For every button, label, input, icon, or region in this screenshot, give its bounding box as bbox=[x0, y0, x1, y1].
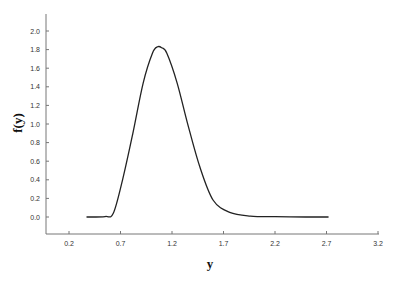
x-tick-label: 1.2 bbox=[167, 240, 177, 247]
x-tick-label: 2.2 bbox=[270, 240, 280, 247]
y-tick-label: 0.4 bbox=[30, 176, 40, 183]
density-curve bbox=[87, 46, 329, 217]
y-tick-label: 1.2 bbox=[30, 102, 40, 109]
y-tick-label: 1.4 bbox=[30, 83, 40, 90]
x-ticks: 0.20.71.21.72.22.73.2 bbox=[64, 231, 383, 247]
y-axis-title: f(y) bbox=[10, 113, 25, 133]
axes: 0.00.20.40.60.81.01.21.41.61.82.0 0.20.7… bbox=[30, 14, 383, 247]
y-tick-label: 0.0 bbox=[30, 214, 40, 221]
y-tick-label: 2.0 bbox=[30, 28, 40, 35]
x-axis-title: y bbox=[207, 256, 214, 271]
y-tick-label: 0.8 bbox=[30, 139, 40, 146]
x-tick-label: 0.2 bbox=[64, 240, 74, 247]
density-chart: 0.00.20.40.60.81.01.21.41.61.82.0 0.20.7… bbox=[0, 0, 399, 287]
x-tick-label: 1.7 bbox=[219, 240, 229, 247]
y-tick-label: 1.8 bbox=[30, 46, 40, 53]
y-tick-label: 0.2 bbox=[30, 195, 40, 202]
y-tick-label: 1.6 bbox=[30, 65, 40, 72]
x-tick-label: 2.7 bbox=[322, 240, 332, 247]
x-tick-label: 0.7 bbox=[116, 240, 126, 247]
x-tick-label: 3.2 bbox=[373, 240, 383, 247]
y-tick-label: 0.6 bbox=[30, 158, 40, 165]
y-tick-label: 1.0 bbox=[30, 121, 40, 128]
